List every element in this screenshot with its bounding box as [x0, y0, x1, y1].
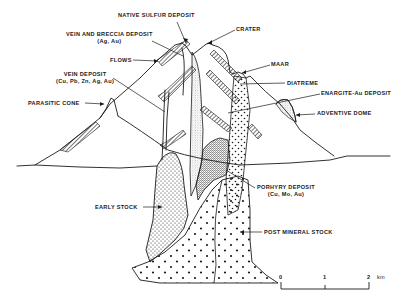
- label-porphyry-deposit: PORHYRY DEPOSIT (Cu, Mo, Au): [257, 184, 315, 197]
- label-vein-breccia-deposit: VEIN AND BRECCIA DEPOSIT (Ag, Au): [66, 31, 153, 44]
- adventive-dome-fill: [276, 100, 296, 123]
- label-diatreme: DIATREME: [287, 80, 318, 87]
- label-native-sulfur-deposit: NATIVE SULFUR DEPOSIT: [118, 12, 195, 19]
- ground-line-left: [17, 165, 157, 168]
- scale-tick-2: 2: [367, 274, 370, 281]
- parasitic-cone-outline: [100, 98, 118, 118]
- ground-line-right: [240, 156, 390, 165]
- diagram-drawing: [0, 0, 407, 308]
- leader-maar: [242, 65, 270, 73]
- label-flows: FLOWS: [110, 57, 132, 64]
- flow-band-lower-left: [60, 122, 100, 152]
- flow-band-bottom-left: [160, 130, 186, 149]
- scale-tick-0: 0: [279, 274, 282, 281]
- label-parasitic-cone: PARASITIC CONE: [28, 100, 80, 107]
- flow-band-lower-right: [200, 106, 232, 132]
- label-adventive-dome: ADVENTIVE DOME: [317, 110, 372, 117]
- label-vein-breccia-metals: (Ag, Au): [66, 38, 153, 45]
- label-porphyry-metals: (Cu, Mo, Au): [257, 191, 315, 198]
- scale-bar-graphic: [281, 282, 369, 289]
- label-post-mineral-stock: POST MINERAL STOCK: [264, 229, 333, 236]
- arrowhead-crater: [207, 40, 212, 44]
- label-vein-breccia-title: VEIN AND BRECCIA DEPOSIT: [66, 31, 153, 37]
- flow-band-far-right: [248, 124, 262, 139]
- flow-band-mid-left: [158, 66, 196, 102]
- label-vein-deposit-title: VEIN DEPOSIT: [64, 71, 107, 77]
- label-crater: CRATER: [236, 26, 261, 33]
- volcano-cross-section-diagram: NATIVE SULFUR DEPOSIT CRATER VEIN AND BR…: [0, 0, 407, 308]
- arrowhead-adventive-dome: [296, 113, 300, 117]
- scale-tick-1: 1: [323, 274, 326, 281]
- label-enargite-au-deposit: ENARGITE-Au DEPOSIT: [321, 90, 391, 97]
- arrowhead-parasitic-cone: [100, 102, 104, 106]
- flow-band-top-left: [157, 40, 190, 66]
- label-vein-deposit: VEIN DEPOSIT (Cu, Pb, Zn, Ag, Au): [56, 71, 114, 84]
- label-early-stock: EARLY STOCK: [95, 204, 138, 211]
- label-maar: MAAR: [271, 61, 289, 68]
- vein-line-3: [182, 48, 184, 95]
- label-vein-deposit-metals: (Cu, Pb, Zn, Ag, Au): [56, 78, 114, 85]
- scale-unit: km: [377, 274, 385, 281]
- label-porphyry-title: PORHYRY DEPOSIT: [257, 184, 315, 190]
